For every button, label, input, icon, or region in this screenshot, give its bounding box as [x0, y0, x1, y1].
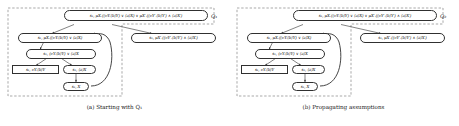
formula-text: s₁, νY.⟨b⟩Y — [26, 68, 45, 72]
formula-text: s₁, ⟨a⟩X — [302, 68, 316, 72]
subfigure-b: s₁, μX.((νY.⟨b⟩Y) ∨ ⟨a⟩X) ∨ μX′.((νY′.⟨b… — [229, 0, 458, 126]
formula-text: s₁, X — [72, 85, 81, 89]
node-b-mu-xprime[interactable]: s₁, μX′.((νY′.⟨b⟩Y′) ∧ ⟨a⟩X′) — [360, 33, 445, 43]
caption-a: (a) Starting with Q₁ — [0, 104, 229, 110]
formula-text: s₁, μX.((νY.⟨b⟩Y) ∨ ⟨a⟩X) ∨ μX′.((νY′.⟨b… — [90, 14, 182, 18]
proof-graph-a: s₁, μX.((νY.⟨b⟩Y) ∨ ⟨a⟩X) ∨ μX′.((νY′.⟨b… — [0, 0, 229, 102]
node-a-nu-y[interactable]: s₁, νY.⟨b⟩Y — [12, 65, 59, 74]
formula-text: s₁, μX′.((νY′.⟨b⟩Y′) ∧ ⟨a⟩X′) — [149, 36, 197, 40]
region-label-b: Q₂ — [440, 13, 446, 19]
figure-container: s₁, μX.((νY.⟨b⟩Y) ∨ ⟨a⟩X) ∨ μX′.((νY′.⟨b… — [0, 0, 459, 126]
region-label-a: Q₁ — [211, 13, 217, 19]
node-b-disjunction[interactable]: s₁, (νY.⟨b⟩Y) ∨ ⟨a⟩X — [255, 49, 325, 59]
formula-text: s₁, (νY.⟨b⟩Y) ∨ ⟨a⟩X — [43, 52, 78, 56]
node-a-diamond-a-x[interactable]: s₁, ⟨a⟩X — [63, 65, 96, 74]
node-b-mu-x[interactable]: s₁, μX.((νY.⟨b⟩Y) ∨ ⟨a⟩X) — [247, 33, 331, 43]
formula-text: s₁, νY.⟨b⟩Y — [255, 68, 274, 72]
formula-text: s₁, μX′.((νY′.⟨b⟩Y′) ∧ ⟨a⟩X′) — [378, 36, 426, 40]
formula-text: s₁, μX.((νY.⟨b⟩Y) ∨ ⟨a⟩X) — [267, 36, 312, 40]
node-a-disjunction[interactable]: s₁, (νY.⟨b⟩Y) ∨ ⟨a⟩X — [26, 49, 96, 59]
node-a-root[interactable]: s₁, μX.((νY.⟨b⟩Y) ∨ ⟨a⟩X) ∨ μX′.((νY′.⟨b… — [64, 10, 208, 21]
node-a-mu-x[interactable]: s₁, μX.((νY.⟨b⟩Y) ∨ ⟨a⟩X) — [18, 33, 102, 43]
node-a-var-x[interactable]: s₁, X — [63, 82, 89, 91]
node-b-root[interactable]: s₁, μX.((νY.⟨b⟩Y) ∨ ⟨a⟩X) ∨ μX′.((νY′.⟨b… — [293, 10, 437, 21]
formula-text: s₁, μX.((νY.⟨b⟩Y) ∨ ⟨a⟩X) ∨ μX′.((νY′.⟨b… — [319, 14, 411, 18]
proof-graph-b: s₁, μX.((νY.⟨b⟩Y) ∨ ⟨a⟩X) ∨ μX′.((νY′.⟨b… — [229, 0, 458, 102]
caption-b: (b) Propagating assumptions — [229, 104, 458, 110]
formula-text: s₁, μX.((νY.⟨b⟩Y) ∨ ⟨a⟩X) — [38, 36, 83, 40]
formula-text: s₁, (νY.⟨b⟩Y) ∨ ⟨a⟩X — [272, 52, 307, 56]
node-b-nu-y[interactable]: s₁, νY.⟨b⟩Y — [241, 65, 288, 74]
node-a-mu-xprime[interactable]: s₁, μX′.((νY′.⟨b⟩Y′) ∧ ⟨a⟩X′) — [131, 33, 216, 43]
formula-text: s₁, X — [301, 85, 310, 89]
subfigure-a: s₁, μX.((νY.⟨b⟩Y) ∨ ⟨a⟩X) ∨ μX′.((νY′.⟨b… — [0, 0, 229, 126]
formula-text: s₁, ⟨a⟩X — [73, 68, 87, 72]
node-b-diamond-a-x[interactable]: s₁, ⟨a⟩X — [292, 65, 325, 74]
node-b-var-x[interactable]: s₁, X — [292, 82, 318, 91]
